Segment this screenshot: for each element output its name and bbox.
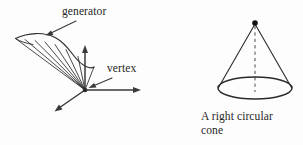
directrix-curve — [16, 34, 95, 68]
vertex-point — [83, 88, 88, 93]
generator-leader-line — [50, 21, 76, 34]
generator-line — [45, 42, 85, 90]
generator-line — [35, 41, 85, 91]
generator-line — [66, 50, 85, 91]
cone-caption: A right circular cone — [201, 110, 301, 137]
horizontal-axis-arrowhead — [133, 87, 141, 93]
vertex-leader-arrowhead — [89, 83, 97, 88]
generator-label: generator — [62, 5, 106, 18]
surface-left-lip — [16, 39, 34, 45]
vertex-label: vertex — [107, 62, 136, 75]
vertex-leader-line — [93, 78, 112, 86]
generator-leader-arrowhead — [46, 31, 54, 36]
cone-apex-point — [252, 20, 258, 26]
figure-canvas: generator vertex A right circular cone — [0, 0, 303, 145]
vertical-axis-arrowhead — [82, 45, 88, 53]
generator-line — [16, 39, 86, 91]
depth-axis — [59, 90, 85, 108]
generator-line — [25, 40, 85, 91]
right-circular-cone-panel — [218, 20, 292, 99]
